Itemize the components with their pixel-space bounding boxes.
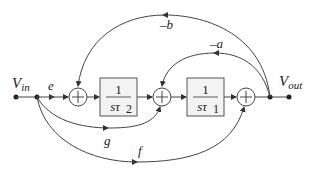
svg-text:1: 1 [213, 102, 219, 116]
svg-text:sτ: sτ [110, 99, 121, 114]
svg-text:2: 2 [126, 102, 132, 116]
input-label: Vin [12, 75, 30, 93]
output-node [287, 95, 292, 100]
integrator-block-tau2: 1 sτ 2 [100, 78, 137, 116]
summing-junction-2 [153, 88, 171, 106]
gain-a-label: –a [209, 36, 224, 51]
gain-b-label: –b [159, 17, 174, 32]
feedforward-f-arrow-icon [132, 159, 138, 165]
summing-junction-3 [237, 88, 255, 106]
signal-e-label: e [48, 78, 54, 93]
block-diagram: Vin e 1 sτ 2 1 sτ 1 [0, 0, 311, 173]
svg-text:1: 1 [202, 82, 209, 97]
gain-f-label: f [138, 143, 144, 158]
integrator-block-tau1: 1 sτ 1 [187, 78, 224, 116]
svg-text:1: 1 [115, 82, 122, 97]
gain-g-label: g [104, 133, 111, 148]
output-label: Vout [279, 73, 303, 91]
feedforward-g-arrow-icon [103, 125, 109, 131]
summing-junction-1 [69, 88, 87, 106]
svg-text:sτ: sτ [197, 99, 208, 114]
feedforward-g-path [37, 97, 160, 128]
